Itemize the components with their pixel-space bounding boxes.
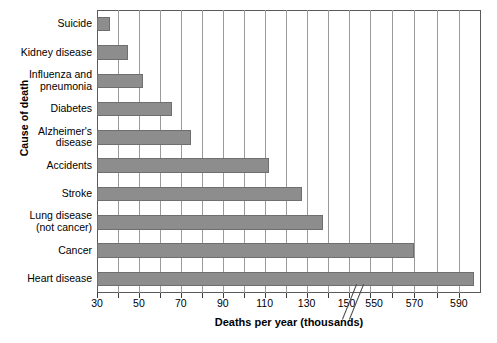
bar — [97, 215, 323, 230]
category-label-text: Diabetes — [51, 103, 92, 115]
bar — [97, 243, 414, 258]
category-label: Lung disease (not cancer) — [0, 209, 92, 235]
gridline — [459, 10, 460, 293]
category-label: Accidents — [0, 153, 92, 179]
x-tick-label: 130 — [287, 297, 327, 309]
bar — [97, 45, 128, 60]
x-tick-label: 570 — [394, 297, 434, 309]
category-label: Diabetes — [0, 96, 92, 122]
category-label-text: Suicide — [58, 18, 92, 30]
x-tick-label: 50 — [119, 297, 159, 309]
x-tick-label: 70 — [161, 297, 201, 309]
x-tick-label: 30 — [77, 297, 117, 309]
category-label-text: Cancer — [58, 245, 92, 257]
x-tick-label: 550 — [354, 297, 394, 309]
gridline — [437, 10, 438, 293]
category-label-text: Heart disease — [27, 273, 92, 285]
bar — [97, 130, 191, 145]
bar — [97, 272, 474, 287]
x-tick-label: 110 — [245, 297, 285, 309]
category-label: Suicide — [0, 11, 92, 37]
category-label: Alzheimer's disease — [0, 124, 92, 150]
category-label: Kidney disease — [0, 39, 92, 65]
bar — [97, 17, 110, 32]
category-label-text: Lung disease (not cancer) — [30, 210, 92, 234]
category-label: Stroke — [0, 181, 92, 207]
bar — [97, 158, 269, 173]
category-label-text: Accidents — [46, 160, 92, 172]
bar — [97, 74, 143, 89]
category-label-text: Alzheimer's disease — [38, 126, 92, 150]
category-label-text: Influenza and pneumonia — [29, 69, 92, 93]
bar — [97, 187, 302, 202]
category-label: Heart disease — [0, 266, 92, 292]
category-label: Cancer — [0, 238, 92, 264]
x-tick-label: 590 — [439, 297, 479, 309]
category-label: Influenza and pneumonia — [0, 68, 92, 94]
x-tick-label: 90 — [203, 297, 243, 309]
category-label-text: Stroke — [62, 188, 92, 200]
bar — [97, 102, 172, 117]
x-axis-title: Deaths per year (thousands) — [97, 316, 481, 328]
category-label-text: Kidney disease — [21, 47, 92, 59]
bar-chart-figure: Cause of death SuicideKidney diseaseInfl… — [0, 0, 497, 343]
